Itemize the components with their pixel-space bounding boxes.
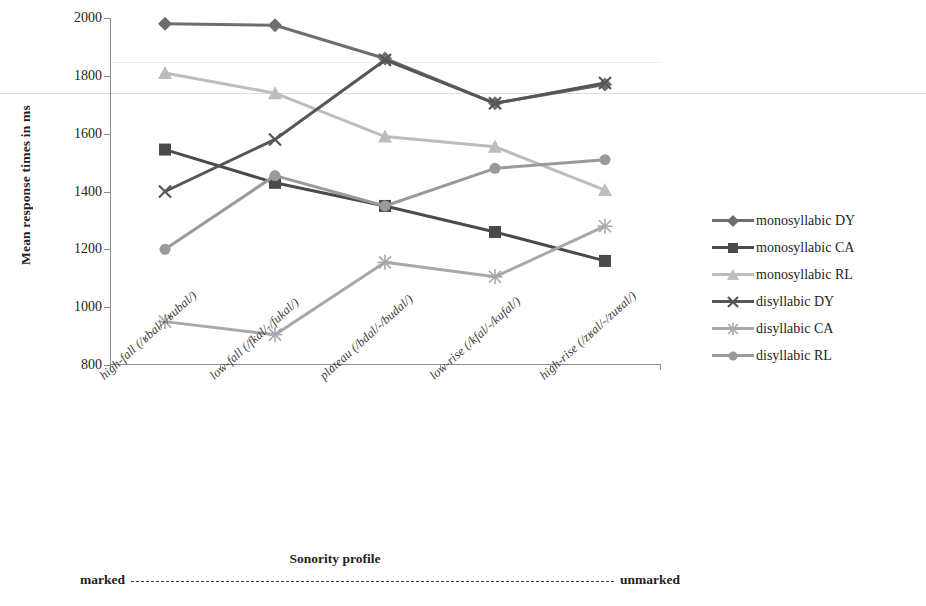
markedness-dash-line [131,581,614,582]
markedness-left-label: marked [80,572,125,588]
data-point-marker-cross [159,186,171,198]
x-axis-title: Sonority profile [0,551,670,567]
y-tick-label: 1200 [74,241,102,257]
legend-marker-circle-icon [712,349,754,363]
series-monosyllabic-dy [158,17,612,111]
y-tick-label: 1800 [74,68,102,84]
y-tick-label: 1400 [74,184,102,200]
series-disyllabic-dy [159,54,611,198]
y-axis-title: Mean response times in ms [18,60,38,310]
legend-marker-diamond-icon [712,214,754,228]
data-point-marker-square [728,243,738,253]
data-point-marker-diamond [158,17,172,31]
legend-marker-cross-icon [712,295,754,309]
data-point-marker-circle [270,170,281,181]
legend-item-monosyllabic-dy[interactable]: monosyllabic DY [712,207,922,234]
data-point-marker-triangle [727,269,739,280]
data-point-marker-star [488,269,503,284]
legend-swatch-icon [712,214,754,228]
y-tick-label: 2000 [74,10,102,26]
chart-figure: Mean response times in ms 20001800160014… [0,0,926,606]
data-point-marker-star [378,255,393,270]
legend-item-monosyllabic-rl[interactable]: monosyllabic RL [712,261,922,288]
series-monosyllabic-rl [158,66,612,196]
data-point-marker-diamond [727,215,739,227]
legend-item-monosyllabic-ca[interactable]: monosyllabic CA [712,234,922,261]
data-point-marker-square [489,226,501,238]
legend-item-disyllabic-ca[interactable]: disyllabic CA [712,315,922,342]
data-point-marker-star [727,322,740,335]
legend-swatch-icon [712,349,754,363]
legend-item-label: disyllabic CA [754,321,833,337]
legend-swatch-icon [712,295,754,309]
series-line [165,60,605,192]
legend-item-label: disyllabic DY [754,294,834,310]
legend-item-label: monosyllabic DY [754,213,855,229]
legend-swatch-icon [712,268,754,282]
data-point-marker-diamond [268,18,282,32]
y-tick-label: 1600 [74,126,102,142]
data-point-marker-cross [728,297,738,307]
data-point-marker-circle [380,200,391,211]
markedness-scale: marked unmarked [80,572,680,588]
data-point-marker-cross [269,133,281,145]
legend-item-disyllabic-rl[interactable]: disyllabic RL [712,342,922,369]
legend-item-label: monosyllabic RL [754,267,853,283]
legend-marker-square-icon [712,241,754,255]
legend-item-label: monosyllabic CA [754,240,854,256]
data-point-marker-square [599,255,611,267]
legend-marker-star-icon [712,322,754,336]
legend-item-disyllabic-dy[interactable]: disyllabic DY [712,288,922,315]
data-point-marker-circle [600,154,611,165]
data-point-marker-circle [160,244,171,255]
data-point-marker-circle [729,351,738,360]
markedness-right-label: unmarked [620,572,680,588]
chart-legend: monosyllabic DYmonosyllabic CAmonosyllab… [712,207,922,369]
legend-marker-triangle-icon [712,268,754,282]
data-point-marker-circle [490,163,501,174]
x-tick-mark [660,364,661,370]
legend-swatch-icon [712,322,754,336]
y-tick-label: 1000 [74,299,102,315]
legend-item-label: disyllabic RL [754,348,832,364]
data-point-marker-square [159,144,171,156]
legend-swatch-icon [712,241,754,255]
data-point-marker-star [598,219,613,234]
